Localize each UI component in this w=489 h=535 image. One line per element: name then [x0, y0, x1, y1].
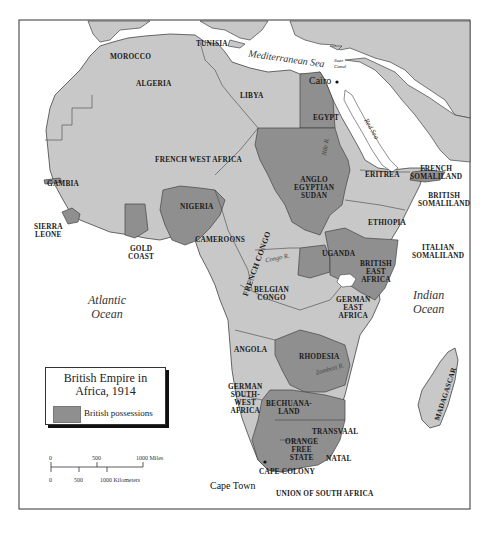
label-british-east-africa: BRITISH EAST AFRICA	[360, 260, 392, 284]
label-nigeria: NIGERIA	[180, 203, 213, 211]
scale-km-500: 500	[74, 477, 83, 483]
label-gold-coast: GOLD COAST	[128, 245, 154, 261]
label-eritrea: ERITREA	[365, 171, 400, 179]
cairo-dot	[335, 80, 338, 83]
ofs-line3: STATE	[285, 454, 318, 462]
label-german-southwest-africa: GERMAN SOUTH- WEST AFRICA	[228, 383, 262, 415]
label-german-east-africa: GERMAN EAST AFRICA	[336, 296, 370, 320]
scale-miles-0: 0	[49, 455, 52, 461]
label-uganda: UGANDA	[322, 250, 355, 258]
label-belgian-congo: BELGIAN CONGO	[254, 286, 289, 302]
label-italian-somaliland: ITALIAN SOMALILAND	[412, 244, 464, 260]
label-cairo: Cairo	[309, 75, 331, 86]
legend-title-line2: Africa, 1914	[46, 385, 165, 398]
sierra-line2: LEONE	[34, 231, 63, 239]
label-suez-canal: Suez Canal	[334, 58, 354, 70]
label-french-somaliland: FRENCH SOMALILAND	[410, 165, 462, 181]
scale-km-0: 0	[49, 477, 52, 483]
label-atlantic-ocean: Atlantic Ocean	[88, 293, 126, 321]
label-anglo-egyptian-sudan: ANGLO EGYPTIAN SUDAN	[294, 176, 334, 200]
scale-miles-1000: 1000 Miles	[136, 455, 163, 461]
it-somali-line2: SOMALILAND	[412, 252, 464, 260]
bea-line3: AFRICA	[360, 276, 392, 284]
gold-line2: COAST	[128, 253, 154, 261]
bech-line2: LAND	[266, 408, 312, 416]
label-transvaal: TRANSVAAL	[312, 428, 358, 436]
indian-line2: Ocean	[413, 302, 444, 316]
label-egypt: EGYPT	[313, 114, 339, 122]
br-somali-line2: SOMALILAND	[418, 200, 470, 208]
legend-title: British Empire in Africa, 1914	[46, 372, 165, 398]
label-cape-colony: CAPE COLONY	[259, 468, 315, 476]
label-morocco: MOROCCO	[110, 53, 151, 61]
label-bechuanaland: BECHUANA- LAND	[266, 400, 312, 416]
label-french-west-africa: FRENCH WEST AFRICA	[155, 156, 242, 164]
label-british-somaliland: BRITISH SOMALILAND	[418, 192, 470, 208]
scale-miles-500: 500	[92, 455, 101, 461]
label-algeria: ALGERIA	[136, 80, 171, 88]
label-cape-town: Cape Town	[210, 480, 256, 491]
label-orange-free-state: ORANGE FREE STATE	[285, 438, 318, 462]
legend-label-british: British possessions	[84, 408, 153, 418]
scale-km-1000: 1000 Kilometers	[100, 477, 140, 483]
map-canvas	[0, 0, 489, 535]
label-rhodesia: RHODESIA	[299, 353, 340, 361]
scale-bar-lines	[48, 460, 148, 474]
label-tunisia: TUNISIA	[196, 40, 228, 48]
label-natal: NATAL	[326, 455, 351, 463]
fr-somali-line2: SOMALILAND	[410, 173, 462, 181]
label-gambia: GAMBIA	[47, 180, 79, 188]
bcongo-line2: CONGO	[254, 294, 289, 302]
atlantic-line1: Atlantic	[88, 293, 126, 307]
atlantic-line2: Ocean	[88, 307, 126, 321]
gswa-line4: AFRICA	[228, 407, 262, 415]
gea-line3: AFRICA	[336, 312, 370, 320]
label-indian-ocean: Indian Ocean	[413, 288, 444, 316]
map-legend: British Empire in Africa, 1914 British p…	[45, 367, 166, 425]
legend-swatch-british	[53, 406, 81, 423]
label-libya: LIBYA	[240, 92, 263, 100]
sudan-line3: SUDAN	[294, 192, 334, 200]
label-sierra-leone: SIERRA LEONE	[34, 223, 63, 239]
label-union-of-south-africa: UNION OF SOUTH AFRICA	[276, 490, 373, 498]
label-ethiopia: ETHIOPIA	[368, 219, 406, 227]
indian-line1: Indian	[413, 288, 444, 302]
label-cameroons: CAMEROONS	[195, 236, 245, 244]
cape-town-dot	[263, 460, 266, 463]
label-angola: ANGOLA	[234, 346, 267, 354]
